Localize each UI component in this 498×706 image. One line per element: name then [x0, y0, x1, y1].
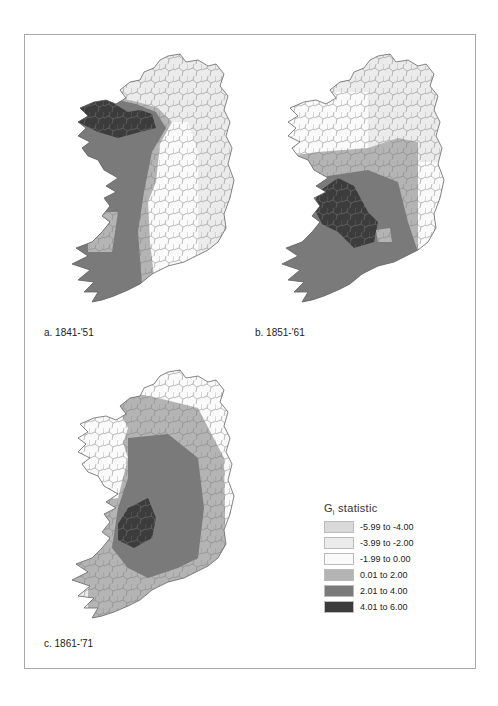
legend-swatch: [324, 601, 354, 613]
map-panel-b: [258, 52, 448, 310]
panel-label-a: a. 1841-'51: [44, 327, 94, 338]
legend-swatch: [324, 521, 354, 533]
legend-swatch: [324, 553, 354, 565]
legend-item: 0.01 to 2.00: [324, 567, 454, 583]
legend-title: Gi statistic: [324, 502, 454, 516]
legend-swatch: [324, 569, 354, 581]
legend-item: 4.01 to 6.00: [324, 599, 454, 615]
legend-item: 2.01 to 4.00: [324, 583, 454, 599]
panel-label-c: c. 1861-'71: [44, 638, 93, 649]
map-panel-c: [48, 368, 238, 626]
map-panel-a: [48, 52, 238, 310]
legend-item: -3.99 to -2.00: [324, 535, 454, 551]
panel-label-b: b. 1851-'61: [255, 327, 305, 338]
legend-item: -1.99 to 0.00: [324, 551, 454, 567]
legend-swatch: [324, 585, 354, 597]
legend-swatch: [324, 537, 354, 549]
legend: Gi statistic -5.99 to -4.00 -3.99 to -2.…: [324, 502, 454, 615]
legend-item: -5.99 to -4.00: [324, 519, 454, 535]
